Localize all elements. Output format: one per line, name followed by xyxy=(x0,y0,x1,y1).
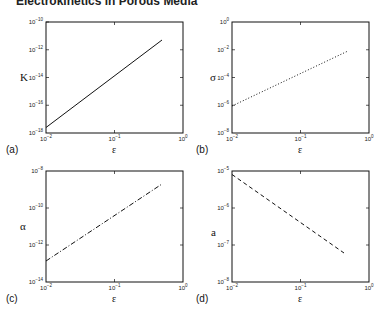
figure: 10−10 10−12 10−14 10−16 10−18 10−2 10−1 … xyxy=(0,0,386,322)
svg-text:10−10: 10−10 xyxy=(29,17,44,25)
svg-text:10−2: 10−2 xyxy=(40,134,52,142)
y-axis-label-a: K xyxy=(20,71,28,83)
svg-text:10−2: 10−2 xyxy=(40,283,52,291)
svg-text:10−6: 10−6 xyxy=(217,203,229,211)
svg-text:10−18: 10−18 xyxy=(29,128,44,136)
svg-text:10−5: 10−5 xyxy=(217,166,229,174)
series-line-a xyxy=(46,40,162,128)
series-line-d xyxy=(232,175,344,254)
panel-a: 10−10 10−12 10−14 10−16 10−18 10−2 10−1 … xyxy=(6,17,188,155)
svg-text:10−12: 10−12 xyxy=(29,240,44,248)
panel-label-a: (a) xyxy=(6,144,18,155)
y-axis-label-b: σ xyxy=(210,71,216,83)
panel-label-c: (c) xyxy=(6,293,18,304)
svg-text:10−10: 10−10 xyxy=(29,203,44,211)
svg-text:100: 100 xyxy=(178,134,188,142)
series-line-b xyxy=(232,51,348,106)
x-axis-label-d: ε xyxy=(298,293,302,304)
svg-text:10−1: 10−1 xyxy=(295,283,307,291)
svg-text:10−1: 10−1 xyxy=(109,134,121,142)
svg-text:10−14: 10−14 xyxy=(29,277,44,285)
svg-text:100: 100 xyxy=(364,134,374,142)
svg-text:10−1: 10−1 xyxy=(295,134,307,142)
series-line-c xyxy=(46,184,162,261)
svg-text:10−4: 10−4 xyxy=(217,73,229,81)
svg-text:10−16: 10−16 xyxy=(29,100,44,108)
panel-b: 100 10−2 10−4 10−6 10−8 10−2 10−1 100 σ … xyxy=(196,17,374,155)
panel-c: 10−8 10−10 10−12 10−14 10−2 10−1 100 α ε… xyxy=(6,166,188,304)
svg-text:10−2: 10−2 xyxy=(226,134,238,142)
svg-text:100: 100 xyxy=(364,283,374,291)
x-axis-label-b: ε xyxy=(298,144,302,155)
panel-d: 10−5 10−6 10−7 10−8 10−2 10−1 100 a ε (d… xyxy=(196,166,374,304)
svg-text:10−7: 10−7 xyxy=(217,240,229,248)
x-axis-label-c: ε xyxy=(112,293,116,304)
svg-text:10−8: 10−8 xyxy=(31,166,43,174)
panel-label-b: (b) xyxy=(196,144,208,155)
y-axis-label-c: α xyxy=(20,220,26,232)
svg-text:10−2: 10−2 xyxy=(217,45,229,53)
svg-text:100: 100 xyxy=(178,283,188,291)
svg-text:10−8: 10−8 xyxy=(217,128,229,136)
y-axis-label-d: a xyxy=(211,226,216,238)
svg-text:10−6: 10−6 xyxy=(217,100,229,108)
svg-text:10−1: 10−1 xyxy=(109,283,121,291)
svg-text:10−8: 10−8 xyxy=(217,277,229,285)
svg-text:100: 100 xyxy=(220,17,230,25)
svg-text:10−14: 10−14 xyxy=(29,73,44,81)
panel-label-d: (d) xyxy=(196,293,208,304)
svg-text:10−12: 10−12 xyxy=(29,45,44,53)
x-axis-label-a: ε xyxy=(112,144,116,155)
svg-text:10−2: 10−2 xyxy=(226,283,238,291)
